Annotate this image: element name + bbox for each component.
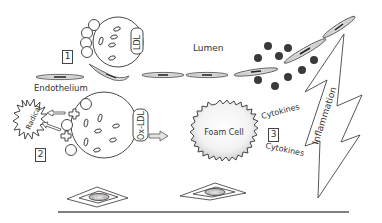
smc-cell-left: SMC (67, 187, 128, 207)
ldl-label: LDL (133, 34, 142, 50)
arrow-to-foam-cell (149, 131, 168, 141)
smc-cell-right: SMC (180, 183, 246, 200)
step-2-box: 2 (35, 148, 46, 162)
atherosclerosis-diagram: LDL Ox-LDL Radical Foam Cell Cytoki (0, 0, 382, 223)
endothelium-label: Endothelium (34, 83, 88, 93)
cytokines-label-top: Cytokines (260, 102, 300, 121)
ox-ldl-label: Ox-LDL (137, 110, 146, 140)
lumen-label: Lumen (193, 43, 224, 53)
step-3-box: 3 (268, 128, 279, 142)
foam-cell-label: Foam Cell (204, 128, 243, 137)
step-1-box: 1 (62, 50, 73, 64)
svg-text:SMC: SMC (94, 195, 104, 200)
foam-cell: Foam Cell (190, 100, 258, 161)
cytokines-label-bottom: Cytokines (265, 141, 305, 158)
ox-ldl-particle (61, 92, 148, 158)
svg-text:SMC: SMC (210, 190, 220, 195)
radical-burst: Radical (13, 99, 47, 139)
radical-arrows (42, 110, 65, 131)
